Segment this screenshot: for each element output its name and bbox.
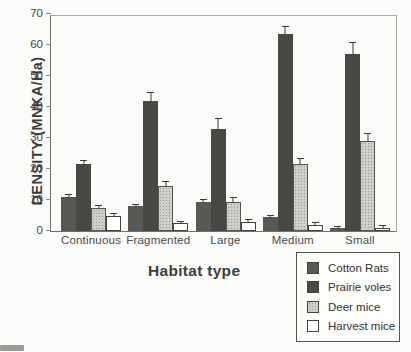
bar-prairie-voles: [278, 34, 293, 231]
legend-swatch-icon: [307, 301, 319, 313]
error-bar-cap: [230, 197, 237, 198]
bar-harvest-mice: [241, 222, 256, 231]
error-bar: [135, 205, 136, 207]
category-label-fragmented: Fragmented: [126, 234, 190, 246]
plot-area: 010203040506070 ContinuousFragmentedLarg…: [50, 15, 397, 232]
legend-label: Prairie voles: [328, 281, 391, 293]
bar-chart-figure: DENSITY (MNKA/Ha) 010203040506070 Contin…: [0, 0, 411, 352]
category-label-large: Large: [210, 234, 240, 246]
bar-deer-mice: [226, 202, 241, 231]
error-bar-cap: [245, 219, 252, 220]
error-bar-cap: [132, 204, 139, 205]
error-bar: [352, 43, 353, 55]
bar-harvest-mice: [308, 225, 323, 231]
legend-label: Cotton Rats: [328, 262, 389, 274]
error-bar: [68, 195, 69, 198]
legend-swatch-icon: [307, 262, 319, 274]
legend: Cotton RatsPrairie volesDeer miceHarvest…: [296, 252, 400, 342]
error-bar-cap: [80, 160, 87, 161]
bar-harvest-mice: [173, 223, 188, 231]
y-tick-mark: [46, 13, 51, 14]
y-tick-label: 70: [30, 7, 43, 19]
legend-swatch-icon: [307, 281, 319, 293]
error-bar: [337, 227, 338, 229]
bar-harvest-mice: [106, 216, 121, 232]
error-bar-cap: [379, 225, 386, 226]
category-label-continuous: Continuous: [61, 234, 121, 246]
error-bar: [113, 214, 114, 216]
error-bar: [218, 119, 219, 130]
legend-swatch-icon: [307, 320, 319, 332]
y-tick-label: 10: [30, 193, 43, 205]
error-bar: [203, 200, 204, 202]
x-axis-title: Habitat type: [148, 262, 240, 280]
error-bar: [98, 206, 99, 208]
error-bar: [270, 216, 271, 218]
legend-item-cotton-rats: Cotton Rats: [307, 262, 399, 274]
y-tick-label: 50: [30, 69, 43, 81]
error-bar-cap: [200, 199, 207, 200]
legend-label: Harvest mice: [328, 320, 395, 332]
y-tick-label: 0: [37, 224, 43, 236]
bar-cotton-rats: [330, 228, 345, 231]
bar-group-large: Large: [196, 129, 256, 231]
bar-cotton-rats: [61, 197, 76, 231]
error-bar: [248, 220, 249, 222]
scan-artifact: [0, 345, 24, 351]
bar-group-medium: Medium: [263, 34, 323, 231]
bar-deer-mice: [91, 208, 106, 231]
y-tick-label: 20: [30, 162, 43, 174]
bar-deer-mice: [158, 186, 173, 231]
bar-cotton-rats: [263, 217, 278, 231]
error-bar-cap: [349, 42, 356, 43]
y-tick-label: 30: [30, 131, 43, 143]
error-bar: [180, 222, 181, 224]
error-bar-cap: [95, 205, 102, 206]
y-tick-label: 40: [30, 100, 43, 112]
bar-prairie-voles: [143, 101, 158, 231]
error-bar-cap: [364, 133, 371, 134]
category-label-medium: Medium: [272, 234, 314, 246]
error-bar-cap: [215, 118, 222, 119]
error-bar-cap: [65, 194, 72, 195]
error-bar-cap: [282, 26, 289, 27]
bar-harvest-mice: [375, 228, 390, 231]
bar-group-small: Small: [330, 54, 390, 231]
error-bar: [367, 134, 368, 142]
error-bar: [382, 226, 383, 228]
error-bar-cap: [147, 92, 154, 93]
bar-group-continuous: Continuous: [61, 164, 121, 231]
error-bar: [300, 159, 301, 165]
error-bar: [285, 27, 286, 35]
error-bar: [150, 93, 151, 102]
error-bar-cap: [312, 222, 319, 223]
legend-item-deer-mice: Deer mice: [307, 301, 399, 313]
bar-prairie-voles: [76, 164, 91, 231]
bar-cotton-rats: [128, 206, 143, 231]
y-tick-label: 60: [30, 38, 43, 50]
bar-deer-mice: [360, 141, 375, 231]
bar-prairie-voles: [345, 54, 360, 231]
error-bar-cap: [267, 215, 274, 216]
bar-prairie-voles: [211, 129, 226, 231]
error-bar-cap: [334, 226, 341, 227]
legend-item-prairie-voles: Prairie voles: [307, 281, 399, 293]
error-bar: [83, 161, 84, 166]
error-bar: [315, 223, 316, 225]
error-bar-cap: [110, 213, 117, 214]
category-label-small: Small: [345, 234, 375, 246]
bar-groups: ContinuousFragmentedLargeMediumSmall: [51, 16, 396, 231]
error-bar: [233, 198, 234, 203]
error-bar-cap: [297, 158, 304, 159]
legend-label: Deer mice: [328, 301, 380, 313]
error-bar: [165, 182, 166, 187]
error-bar-cap: [162, 181, 169, 182]
error-bar-cap: [177, 221, 184, 222]
bar-deer-mice: [293, 164, 308, 231]
bar-group-fragmented: Fragmented: [128, 101, 188, 231]
bar-cotton-rats: [196, 202, 211, 231]
legend-item-harvest-mice: Harvest mice: [307, 320, 399, 332]
